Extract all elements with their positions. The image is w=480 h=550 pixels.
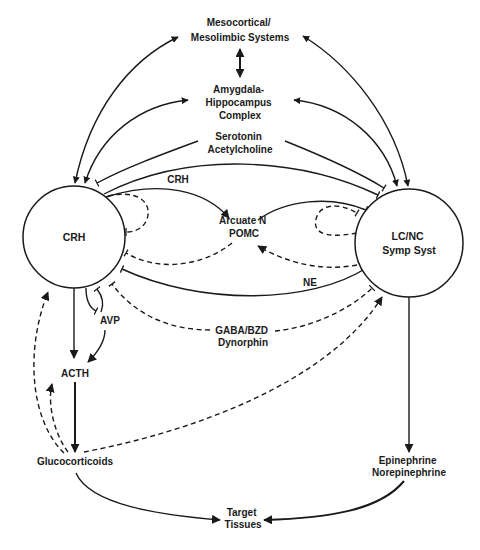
edge-glucocorticoids-lcnc bbox=[84, 297, 382, 452]
amygdala-line-3: Complex bbox=[219, 110, 262, 121]
node-mesocortical[interactable]: Mesocortical/ Mesolimbic Systems bbox=[191, 17, 290, 43]
edge-arcuate-crh-dashed bbox=[126, 243, 232, 264]
lcnc-line-2: Symp Syst bbox=[382, 244, 436, 256]
epinephrine-line-1: Epinephrine bbox=[379, 455, 437, 466]
target-line-2: Tissues bbox=[224, 519, 261, 530]
stress-system-diagram: Mesocortical/ Mesolimbic Systems Amygdal… bbox=[0, 0, 480, 550]
node-amygdala[interactable]: Amygdala- Hippocampus Complex bbox=[206, 84, 275, 121]
edge-glucocorticoids-crh bbox=[34, 292, 64, 453]
node-arcuate[interactable]: Arcuate N POMC bbox=[219, 215, 269, 239]
edge-crh-avp bbox=[86, 288, 96, 311]
serotonin-line-1: Serotonin bbox=[215, 131, 262, 142]
node-target[interactable]: Target Tissues bbox=[224, 507, 261, 530]
node-gaba[interactable]: GABA/BZD Dynorphin bbox=[215, 325, 271, 348]
target-line-1: Target bbox=[227, 507, 257, 518]
node-crh-label: CRH bbox=[63, 231, 86, 243]
lcnc-line-1: LC/NC bbox=[391, 230, 423, 242]
edge-glucocorticoids-target bbox=[76, 473, 220, 520]
node-glucocorticoids[interactable]: Glucocorticoids bbox=[37, 456, 114, 467]
serotonin-line-2: Acetylcholine bbox=[207, 144, 272, 155]
edge-serotonin-lcnc bbox=[285, 141, 384, 188]
node-acth[interactable]: ACTH bbox=[61, 368, 89, 379]
mesocortical-line-1: Mesocortical/ bbox=[207, 17, 271, 28]
edge-epinephrine-target bbox=[264, 481, 404, 520]
edge-avp-acth bbox=[88, 330, 105, 362]
edge-label-ne: NE bbox=[303, 277, 317, 288]
amygdala-line-2: Hippocampus bbox=[206, 97, 273, 108]
arcuate-line-2: POMC bbox=[229, 228, 259, 239]
edge-arcuate-lcnc bbox=[258, 201, 366, 220]
mesocortical-line-2: Mesolimbic Systems bbox=[191, 32, 290, 43]
edge-lcnc-mesocortical bbox=[303, 36, 408, 186]
edge-lcnc-amygdala bbox=[294, 100, 397, 186]
edge-crh-arcuate bbox=[106, 189, 229, 218]
node-epinephrine[interactable]: Epinephrine Norepinephrine bbox=[372, 455, 446, 478]
edge-label-crh: CRH bbox=[167, 174, 189, 185]
node-lcnc-circle[interactable] bbox=[355, 189, 463, 297]
edge-lcnc-crh-ne bbox=[122, 267, 368, 296]
arcuate-line-1: Arcuate N bbox=[219, 215, 266, 226]
gaba-line-2: Dynorphin bbox=[218, 337, 268, 348]
amygdala-line-1: Amygdala- bbox=[213, 84, 264, 95]
epinephrine-line-2: Norepinephrine bbox=[372, 467, 446, 478]
node-avp[interactable]: AVP bbox=[100, 315, 120, 326]
gaba-line-1: GABA/BZD bbox=[215, 325, 268, 336]
node-serotonin[interactable]: Serotonin Acetylcholine bbox=[207, 131, 272, 155]
edge-avp-crh bbox=[97, 289, 103, 312]
edge-glucocorticoids-acth bbox=[50, 384, 68, 452]
edge-lcnc-self-loop bbox=[315, 206, 357, 235]
edge-lcnc-arcuate-dashed bbox=[258, 246, 357, 267]
edge-crh-mesocortical bbox=[75, 37, 178, 183]
edge-gaba-lcnc bbox=[275, 288, 372, 331]
edge-crh-lcnc-top bbox=[104, 164, 378, 195]
